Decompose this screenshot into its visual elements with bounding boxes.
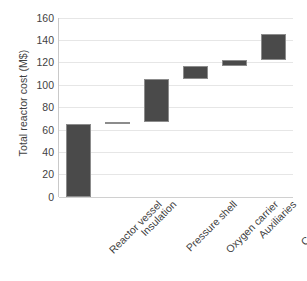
- y-axis-tick-labels: 160140120100806040200: [28, 0, 54, 281]
- y-tick-label-40: 40: [28, 147, 54, 157]
- gridline-60: [59, 130, 293, 131]
- y-tick-label-120: 120: [28, 57, 54, 67]
- bar-pressure-shell[interactable]: [144, 79, 168, 122]
- bar-reactor-vessel[interactable]: [66, 124, 90, 197]
- x-axis-category-labels: Reactor vesselInsulationPressure shellOx…: [58, 198, 292, 281]
- bar-contingency[interactable]: [261, 34, 285, 60]
- gridline-100: [59, 85, 293, 86]
- y-tick-label-80: 80: [28, 102, 54, 112]
- plot-area: [58, 18, 293, 197]
- y-tick-label-20: 20: [28, 169, 54, 179]
- gridline-80: [59, 107, 293, 108]
- y-tick-label-60: 60: [28, 125, 54, 135]
- gridline-120: [59, 62, 293, 63]
- y-tick-label-140: 140: [28, 35, 54, 45]
- gridline-140: [59, 40, 293, 41]
- bar-oxygen-carrier[interactable]: [183, 66, 207, 79]
- y-tick-label-100: 100: [28, 80, 54, 90]
- bar-auxiliaries[interactable]: [222, 60, 246, 66]
- bar-insulation[interactable]: [105, 122, 129, 125]
- y-tick-label-0: 0: [28, 192, 54, 202]
- waterfall-chart: Total reactor cost (M$) 1601401201008060…: [0, 0, 307, 281]
- x-category-label-contingency: Contingency: [298, 198, 307, 248]
- gridline-40: [59, 152, 293, 153]
- gridline-20: [59, 174, 293, 175]
- y-tick-label-160: 160: [28, 13, 54, 23]
- gridline-160: [59, 18, 293, 19]
